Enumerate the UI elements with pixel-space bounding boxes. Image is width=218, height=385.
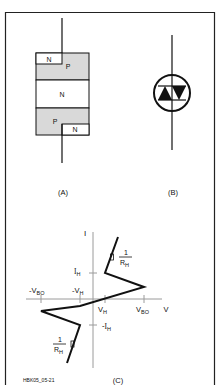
- panel-b-schematic-symbol: (B): [154, 35, 190, 197]
- figure-id: HBK05_05-21: [23, 377, 55, 383]
- label-vbo-pos: VBO: [136, 305, 150, 315]
- slope-label-bottom: 1 RH: [53, 336, 66, 355]
- label-p-top: P: [66, 63, 71, 70]
- svg-text:RH: RH: [54, 346, 63, 355]
- panel-c-vi-curve: I V IH -IH VH VBO -VH -VBO 1 RH 1 RH (C): [26, 229, 169, 385]
- panel-a-layer-structure: N P N P N (A): [36, 18, 89, 197]
- caption-b: (B): [168, 188, 179, 197]
- label-n-middle: N: [59, 91, 64, 98]
- label-ih-pos: IH: [74, 267, 81, 277]
- label-ih-neg: -IH: [102, 322, 111, 332]
- svg-text:RH: RH: [120, 259, 129, 268]
- caption-a: (A): [58, 188, 69, 197]
- label-vh-pos: VH: [98, 305, 107, 315]
- x-axis-label: V: [163, 305, 168, 314]
- svg-text:1: 1: [124, 249, 128, 256]
- label-p-bottom: P: [53, 118, 58, 125]
- label-vh-neg: -VH: [72, 286, 84, 296]
- label-vbo-neg: -VBO: [29, 286, 45, 296]
- caption-c: (C): [113, 376, 124, 385]
- svg-text:1: 1: [58, 336, 62, 343]
- y-axis-label: I: [84, 229, 86, 238]
- figure: N P N P N (A) (B) I: [0, 0, 218, 385]
- label-n-top: N: [46, 56, 51, 63]
- label-n-bottom: N: [72, 126, 77, 133]
- slope-label-top: 1 RH: [119, 249, 132, 268]
